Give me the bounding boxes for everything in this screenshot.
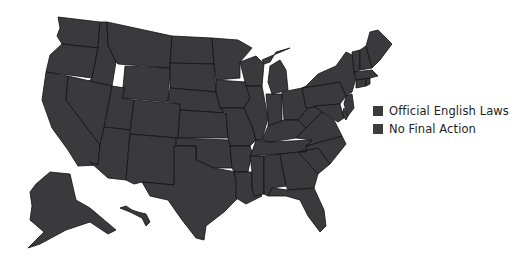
state-michigan: [262, 48, 290, 94]
legend: Official English Laws No Final Action: [373, 103, 509, 139]
state-massachusetts: [354, 70, 378, 80]
state-florida: [268, 188, 326, 232]
legend-label-no-final-action: No Final Action: [389, 122, 476, 136]
state-oregon: [46, 44, 98, 78]
state-indiana: [266, 94, 282, 126]
legend-item-no-final-action: No Final Action: [373, 121, 509, 137]
legend-label-official-english: Official English Laws: [389, 104, 509, 118]
state-new-mexico: [126, 134, 176, 185]
state-mississippi: [250, 156, 264, 196]
state-wyoming: [122, 66, 170, 102]
state-colorado: [130, 100, 180, 138]
legend-item-official-english: Official English Laws: [373, 103, 509, 119]
legend-swatch-no-final-action: [373, 124, 383, 134]
state-montana: [107, 22, 172, 68]
state-iowa: [216, 80, 250, 108]
state-rhode-island: [366, 78, 370, 86]
state-arkansas: [230, 146, 252, 172]
state-alaska: [28, 172, 116, 248]
state-south-dakota: [170, 63, 216, 92]
state-kansas: [178, 110, 228, 138]
state-washington: [57, 17, 100, 48]
state-north-dakota: [170, 36, 214, 64]
state-hawaii: [120, 206, 150, 226]
legend-swatch-official-english: [373, 106, 383, 116]
